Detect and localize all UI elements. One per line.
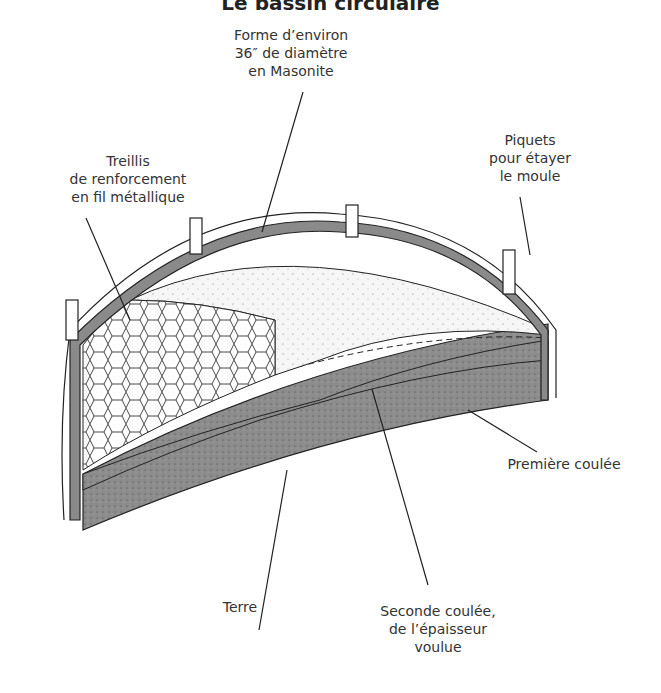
label-premiere-coulee: Première coulée: [474, 455, 654, 473]
label-seconde-coulee: Seconde coulée, de l’épaisseur voulue: [368, 602, 508, 656]
label-treillis: Treillis de renforcement en fil métalliq…: [43, 152, 213, 206]
label-piquets: Piquets pour étayer le moule: [470, 131, 590, 185]
label-forme: Forme d’environ 36″ de diamètre en Mason…: [221, 26, 361, 80]
basin-cross-section-illustration: [0, 0, 661, 693]
label-terre: Terre: [200, 598, 280, 616]
